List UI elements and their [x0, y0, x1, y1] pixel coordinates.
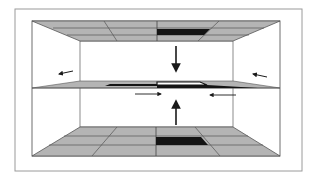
mid-white-tile	[157, 82, 207, 85]
ceiling-dark-tile	[157, 29, 210, 35]
diagram-stage	[0, 0, 315, 179]
room-diagram	[0, 0, 315, 179]
floor-dark-tile	[156, 137, 208, 145]
mid-dark-tile-left	[105, 84, 157, 86]
